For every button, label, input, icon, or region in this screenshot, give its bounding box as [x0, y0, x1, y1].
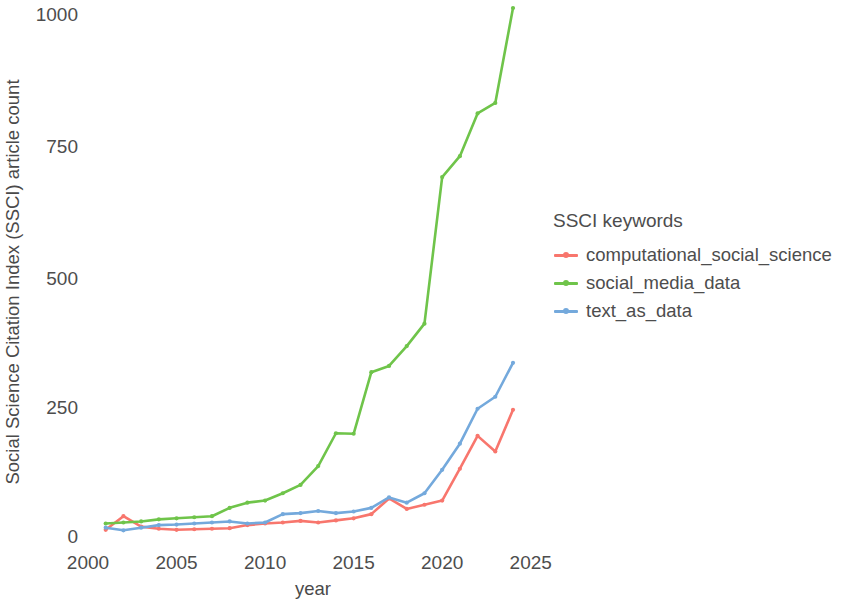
- series-point: [352, 432, 356, 436]
- y-axis-tick-labels: 1000 750 500 250 0: [16, 0, 78, 609]
- series-point: [228, 519, 232, 523]
- series-point: [228, 526, 232, 530]
- series-point: [210, 514, 214, 518]
- series-point: [475, 407, 479, 411]
- series-point: [245, 501, 249, 505]
- legend-key-icon: [553, 243, 579, 267]
- series-point: [369, 512, 373, 516]
- series-point: [298, 511, 302, 515]
- x-tick-label: 2025: [491, 552, 571, 574]
- series-point: [493, 449, 497, 453]
- legend: SSCI keywords computational_social_scien…: [553, 210, 843, 325]
- legend-item-computational-social-science[interactable]: computational_social_science: [553, 241, 843, 269]
- series-point: [369, 370, 373, 374]
- series-point: [104, 521, 108, 525]
- series-point: [387, 495, 391, 499]
- series-point: [174, 522, 178, 526]
- series-point: [405, 507, 409, 511]
- series-point: [139, 526, 143, 530]
- series-point: [440, 175, 444, 179]
- series-point: [316, 509, 320, 513]
- series-point: [157, 523, 161, 527]
- series-point: [210, 527, 214, 531]
- y-tick-label: 500: [18, 269, 78, 288]
- series-point: [121, 528, 125, 532]
- legend-key-point: [563, 252, 569, 258]
- legend-key-point: [563, 308, 569, 314]
- y-tick-label: 750: [18, 137, 78, 156]
- series-point: [157, 517, 161, 521]
- legend-title: SSCI keywords: [553, 210, 843, 232]
- series-point: [245, 523, 249, 527]
- legend-key-point: [563, 280, 569, 286]
- series-point: [139, 525, 143, 529]
- series-point: [281, 491, 285, 495]
- legend-key-icon: [553, 299, 579, 323]
- series-point: [210, 520, 214, 524]
- x-tick-label: 2020: [402, 552, 482, 574]
- series-point: [387, 364, 391, 368]
- legend-item-label: text_as_data: [586, 300, 692, 322]
- series-point: [422, 322, 426, 326]
- series-point: [334, 511, 338, 515]
- series-point: [334, 431, 338, 435]
- series-point: [458, 154, 462, 158]
- series-point: [104, 528, 108, 532]
- series-point: [281, 520, 285, 524]
- series-point: [298, 483, 302, 487]
- series-point: [263, 521, 267, 525]
- series-point: [493, 395, 497, 399]
- series-point: [511, 361, 515, 365]
- series-point: [192, 527, 196, 531]
- series-point: [405, 344, 409, 348]
- series-point: [174, 528, 178, 532]
- series-point: [405, 501, 409, 505]
- series-point: [281, 512, 285, 516]
- x-tick-label: 2015: [314, 552, 394, 574]
- x-tick-label: 2000: [48, 552, 128, 574]
- legend-item-text-as-data[interactable]: text_as_data: [553, 297, 843, 325]
- series-point: [475, 111, 479, 115]
- chart-figure: Social Science Citation Index (SSCI) art…: [0, 0, 851, 609]
- series-point: [511, 6, 515, 10]
- series-point: [174, 516, 178, 520]
- y-tick-label: 250: [18, 398, 78, 417]
- series-line: [106, 363, 513, 530]
- series-point: [422, 503, 426, 507]
- series-point: [316, 520, 320, 524]
- legend-item-label: social_media_data: [586, 272, 740, 294]
- series-point: [458, 467, 462, 471]
- series-point: [387, 496, 391, 500]
- series-point: [104, 526, 108, 530]
- x-tick-label: 2010: [225, 552, 305, 574]
- series-line: [106, 410, 513, 530]
- series-point: [493, 101, 497, 105]
- legend-item-social-media-data[interactable]: social_media_data: [553, 269, 843, 297]
- series-point: [352, 509, 356, 513]
- series-point: [263, 498, 267, 502]
- x-tick-label: 2005: [137, 552, 217, 574]
- series-point: [440, 468, 444, 472]
- legend-item-label: computational_social_science: [586, 244, 832, 266]
- series-point: [511, 408, 515, 412]
- series-point: [121, 520, 125, 524]
- series-line: [106, 8, 513, 524]
- series-point: [228, 506, 232, 510]
- y-tick-label: 0: [18, 527, 78, 546]
- series-point: [298, 519, 302, 523]
- series-point: [192, 521, 196, 525]
- series-point: [316, 464, 320, 468]
- series-point: [369, 506, 373, 510]
- series-point: [334, 518, 338, 522]
- series-point: [263, 520, 267, 524]
- y-tick-label: 1000: [18, 5, 78, 24]
- series-point: [245, 521, 249, 525]
- series-point: [440, 498, 444, 502]
- series-point: [121, 514, 125, 518]
- series-point: [157, 527, 161, 531]
- series-point: [458, 442, 462, 446]
- legend-key-icon: [553, 271, 579, 295]
- series-point: [192, 515, 196, 519]
- x-axis-title: year: [88, 578, 538, 600]
- series-point: [352, 516, 356, 520]
